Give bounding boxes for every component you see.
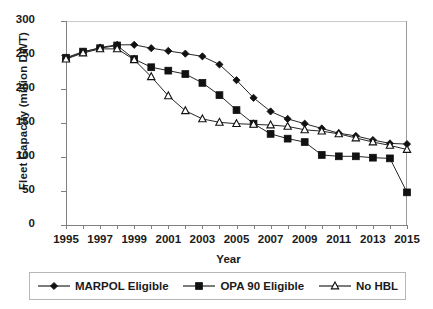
x-tick xyxy=(185,225,186,229)
legend-label: MARPOL Eligible xyxy=(75,280,169,292)
plot-area: 050100150200250300 199519971999200120032… xyxy=(66,21,407,225)
series-plot xyxy=(66,21,407,225)
data-point-marker xyxy=(284,135,291,142)
x-tick xyxy=(390,225,391,229)
x-tick xyxy=(117,225,118,229)
x-tick xyxy=(407,225,408,229)
data-point-marker xyxy=(165,67,172,74)
data-point-marker xyxy=(370,154,377,161)
data-point-marker xyxy=(301,139,308,146)
data-point-marker xyxy=(216,92,223,99)
legend-item[interactable]: No HBL xyxy=(318,279,398,293)
data-point-marker xyxy=(148,64,155,71)
y-tick-label: 200 xyxy=(0,81,35,93)
y-tick-label: 0 xyxy=(0,217,35,229)
legend-item[interactable]: OPA 90 Eligible xyxy=(182,279,304,293)
series-line xyxy=(66,45,407,144)
data-point-marker xyxy=(199,53,206,60)
x-tick xyxy=(219,225,220,229)
chart-legend: MARPOL EligibleOPA 90 EligibleNo HBL xyxy=(29,272,406,300)
x-tick xyxy=(134,225,135,229)
data-point-marker xyxy=(148,45,155,52)
y-tick-label: 300 xyxy=(0,13,35,25)
x-tick xyxy=(66,225,67,229)
x-tick xyxy=(322,225,323,229)
x-tick xyxy=(168,225,169,229)
data-point-marker xyxy=(131,41,138,48)
x-tick xyxy=(237,225,238,229)
data-point-marker xyxy=(199,115,206,122)
y-tick-label: 150 xyxy=(0,115,35,127)
y-tick-label: 250 xyxy=(0,47,35,59)
data-point-marker xyxy=(387,155,394,162)
data-point-marker xyxy=(404,189,411,196)
legend-marker-open-triangle-icon xyxy=(318,279,352,293)
data-point-marker xyxy=(352,153,359,160)
data-point-marker xyxy=(199,79,206,86)
data-point-marker xyxy=(318,152,325,159)
x-tick xyxy=(151,225,152,229)
x-tick xyxy=(288,225,289,229)
data-point-marker xyxy=(182,107,189,114)
legend-item[interactable]: MARPOL Eligible xyxy=(37,279,169,293)
y-axis-title: Fleet Capacity (million DWT) xyxy=(17,11,29,211)
y-tick-label: 100 xyxy=(0,149,35,161)
legend-label: OPA 90 Eligible xyxy=(220,280,304,292)
series-marpol-eligible xyxy=(62,41,410,147)
x-tick xyxy=(373,225,374,229)
x-tick xyxy=(202,225,203,229)
x-tick xyxy=(339,225,340,229)
y-tick-label: 50 xyxy=(0,183,35,195)
x-tick xyxy=(305,225,306,229)
data-point-marker xyxy=(182,71,189,78)
x-tick xyxy=(271,225,272,229)
data-point-marker xyxy=(182,50,189,57)
data-point-marker xyxy=(233,107,240,114)
legend-label: No HBL xyxy=(356,280,398,292)
x-tick xyxy=(254,225,255,229)
x-tick xyxy=(83,225,84,229)
data-point-marker xyxy=(165,47,172,54)
legend-marker-filled-square-icon xyxy=(182,279,216,293)
x-axis-title-text: Year xyxy=(216,253,240,265)
data-point-marker xyxy=(335,153,342,160)
data-point-marker xyxy=(267,130,274,137)
x-tick xyxy=(356,225,357,229)
chart-root: Fleet Capacity (million DWT) 05010015020… xyxy=(0,0,433,309)
x-axis-title: Year xyxy=(0,253,433,265)
legend-marker-filled-diamond-icon xyxy=(37,279,71,293)
x-tick-label: 2015 xyxy=(387,233,427,245)
x-tick xyxy=(100,225,101,229)
